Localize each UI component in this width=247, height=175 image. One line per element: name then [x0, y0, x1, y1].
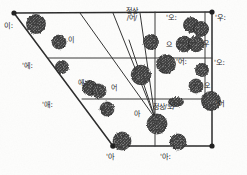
data-blob: [27, 15, 46, 34]
frame-left-diagonal-edge: [14, 13, 113, 146]
label-i: 이: [68, 37, 74, 44]
annotation-normal-o: 정상/오/: [153, 104, 175, 111]
label-o: 오: [204, 83, 210, 90]
data-blob: [52, 35, 66, 49]
data-blob: [196, 64, 209, 77]
label-eu: 으: [166, 42, 172, 49]
data-blob: [147, 114, 167, 134]
vertex-top-left: [11, 10, 16, 15]
vertex-bottom-right: [209, 143, 214, 148]
label-a-left: '아: [106, 153, 115, 161]
vertex-top-right: [209, 9, 214, 14]
data-point-blobs: [27, 15, 221, 151]
annotation-normal-eo-line2: /어/: [126, 15, 138, 22]
annotation-normal-eo: 정상 /어/: [126, 8, 138, 23]
label-e-long: '에:: [22, 62, 33, 70]
data-blob: [131, 65, 151, 85]
label-u: 우: [203, 41, 209, 48]
label-e: 에: [78, 80, 84, 87]
label-a: 아: [134, 111, 140, 118]
annotation-normal-o-line1: 정상/오/: [153, 103, 175, 111]
data-blob: [188, 36, 204, 52]
data-blob: [92, 84, 106, 98]
label-eo-long: '어:: [176, 58, 187, 66]
chart-gridlines: [48, 12, 212, 146]
label-eo: 어: [111, 85, 117, 92]
data-blob: [189, 79, 203, 93]
data-blob: [100, 102, 114, 116]
label-o-long: '오:: [166, 14, 177, 22]
data-blob: [144, 35, 159, 50]
label-eo-right: '어: [216, 100, 225, 108]
data-blob: [170, 134, 186, 150]
label-ae-long: '애:: [42, 101, 53, 109]
label-a-long: '아:: [160, 153, 171, 161]
ray-2: [113, 13, 155, 118]
data-blob: [157, 55, 176, 74]
data-blob: [194, 22, 209, 37]
chart-frame: [14, 12, 212, 146]
vowel-chart-figure: 이: '에: '애: '아 '아: '오: '우: '어: '오: '어 이 에…: [0, 0, 247, 175]
data-blob: [56, 61, 69, 74]
data-blob: [113, 132, 131, 150]
label-o-long-2: '오:: [214, 59, 225, 67]
label-u-long: '우:: [215, 14, 226, 22]
label-i-long: 이:: [4, 22, 13, 30]
